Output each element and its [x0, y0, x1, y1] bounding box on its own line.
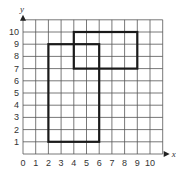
rectangles: [48, 32, 137, 142]
y-tick-label: 1: [14, 137, 19, 147]
y-tick-label: 9: [14, 39, 19, 49]
y-tick-label: 5: [14, 88, 19, 98]
y-tick-label: 3: [14, 112, 19, 122]
axes: yx: [19, 4, 176, 159]
rectangle-2: [74, 32, 138, 69]
y-axis-arrow-icon: [20, 15, 26, 21]
y-tick-label: 10: [9, 27, 19, 37]
x-tick-label: 3: [59, 158, 64, 168]
x-tick-label: 10: [145, 158, 155, 168]
y-tick-label: 6: [14, 76, 19, 86]
x-tick-label: 1: [33, 158, 38, 168]
coordinate-grid-chart: yx 01234567891012345678910: [0, 0, 176, 170]
x-axis-arrow-icon: [164, 151, 170, 157]
y-axis-label: y: [19, 4, 24, 14]
x-tick-label: 0: [20, 158, 25, 168]
x-tick-label: 5: [84, 158, 89, 168]
y-tick-label: 7: [14, 64, 19, 74]
y-tick-label: 4: [14, 100, 19, 110]
x-tick-label: 9: [135, 158, 140, 168]
x-tick-label: 4: [71, 158, 76, 168]
x-tick-label: 8: [122, 158, 127, 168]
y-tick-label: 8: [14, 51, 19, 61]
y-tick-label: 2: [14, 125, 19, 135]
grid-lines: [23, 20, 163, 154]
x-axis-label: x: [171, 149, 176, 159]
tick-labels: 01234567891012345678910: [9, 27, 155, 168]
x-tick-label: 6: [97, 158, 102, 168]
x-tick-label: 7: [109, 158, 114, 168]
x-tick-label: 2: [46, 158, 51, 168]
